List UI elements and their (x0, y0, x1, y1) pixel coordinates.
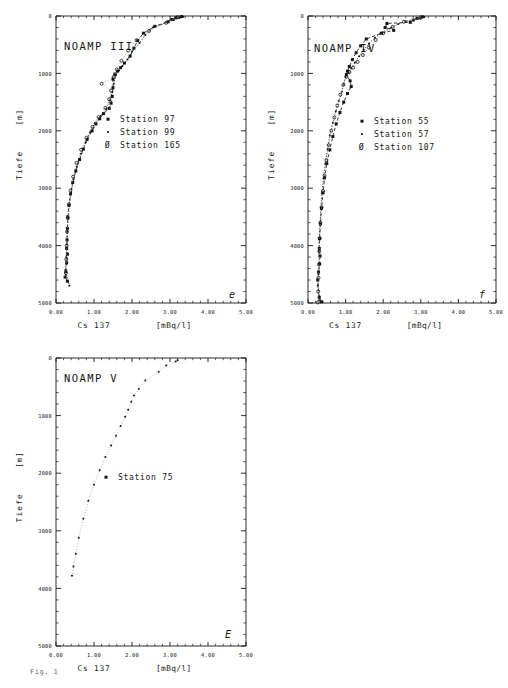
svg-text:NOAMP V: NOAMP V (64, 372, 118, 384)
svg-text:5000: 5000 (290, 300, 304, 306)
svg-text:3.00: 3.00 (414, 309, 428, 315)
svg-text:3000: 3000 (38, 185, 52, 191)
svg-text:f: f (479, 289, 486, 300)
svg-text:[mBq/l]: [mBq/l] (156, 664, 192, 673)
plot-noamp-4: 0.001.002.003.004.005.000100020003000400… (252, 0, 508, 345)
svg-text:5.00: 5.00 (239, 309, 253, 315)
svg-text:Cs 137: Cs 137 (78, 664, 111, 673)
svg-text:NOAMP III: NOAMP III (64, 40, 134, 52)
svg-text:2.00: 2.00 (376, 309, 390, 315)
svg-text:0.00: 0.00 (301, 309, 315, 315)
svg-text:3000: 3000 (290, 185, 304, 191)
svg-text:2.00: 2.00 (125, 309, 139, 315)
figure-caption: Fig. 1 (30, 668, 58, 676)
svg-text:NOAMP IV: NOAMP IV (314, 42, 376, 54)
svg-text:4000: 4000 (290, 243, 304, 249)
svg-text:Station 107: Station 107 (374, 143, 435, 152)
panel-noamp-5: 0.001.002.003.004.005.000100020003000400… (0, 340, 258, 688)
svg-text:[m]: [m] (267, 109, 276, 125)
svg-text:E: E (225, 629, 231, 640)
svg-text:0: 0 (49, 355, 52, 361)
svg-text:2000: 2000 (290, 128, 304, 134)
svg-text:1.00: 1.00 (87, 652, 101, 658)
svg-text:1000: 1000 (38, 71, 52, 77)
svg-text:Station 55: Station 55 (374, 117, 429, 126)
svg-text:4.00: 4.00 (201, 652, 215, 658)
svg-text:Tiefe: Tiefe (15, 493, 24, 522)
svg-text:Station 165: Station 165 (120, 141, 181, 150)
svg-text:[mBq/l]: [mBq/l] (156, 321, 192, 330)
svg-text:Cs 137: Cs 137 (329, 321, 362, 330)
panel-noamp-3: 0.001.002.003.004.005.000100020003000400… (0, 0, 258, 345)
svg-text:0.00: 0.00 (49, 652, 63, 658)
plot-noamp-5: 0.001.002.003.004.005.000100020003000400… (0, 340, 258, 688)
svg-text:Cs 137: Cs 137 (78, 321, 111, 330)
svg-text:0: 0 (49, 13, 52, 19)
svg-text:4000: 4000 (38, 586, 52, 592)
svg-text:Ø: Ø (105, 140, 110, 150)
svg-text:Station 75: Station 75 (118, 473, 173, 482)
svg-text:5000: 5000 (38, 300, 52, 306)
plot-noamp-3: 0.001.002.003.004.005.000100020003000400… (0, 0, 258, 345)
svg-text:Ø: Ø (359, 142, 364, 152)
svg-text:0.00: 0.00 (49, 309, 63, 315)
svg-text:[mBq/l]: [mBq/l] (407, 321, 443, 330)
svg-text:2000: 2000 (38, 470, 52, 476)
svg-text:2.00: 2.00 (125, 652, 139, 658)
svg-text:1000: 1000 (38, 413, 52, 419)
svg-text:Tiefe: Tiefe (267, 150, 276, 179)
svg-text:5.00: 5.00 (489, 309, 503, 315)
svg-text:3.00: 3.00 (163, 309, 177, 315)
svg-text:1000: 1000 (290, 71, 304, 77)
svg-text:Station 97: Station 97 (120, 115, 175, 124)
svg-text:3.00: 3.00 (163, 652, 177, 658)
svg-text:Station 57: Station 57 (374, 130, 429, 139)
svg-text:Station 99: Station 99 (120, 128, 175, 137)
svg-text:[m]: [m] (15, 109, 24, 125)
svg-text:1.00: 1.00 (87, 309, 101, 315)
svg-text:e: e (229, 289, 235, 300)
svg-text:5.00: 5.00 (239, 652, 253, 658)
svg-text:0: 0 (301, 13, 304, 19)
svg-text:1.00: 1.00 (339, 309, 353, 315)
svg-text:[m]: [m] (15, 452, 24, 468)
svg-text:Tiefe: Tiefe (15, 150, 24, 179)
svg-text:2000: 2000 (38, 128, 52, 134)
panel-noamp-4: 0.001.002.003.004.005.000100020003000400… (252, 0, 508, 345)
svg-text:3000: 3000 (38, 528, 52, 534)
svg-text:5000: 5000 (38, 643, 52, 649)
svg-text:4000: 4000 (38, 243, 52, 249)
svg-text:4.00: 4.00 (452, 309, 466, 315)
svg-text:4.00: 4.00 (201, 309, 215, 315)
